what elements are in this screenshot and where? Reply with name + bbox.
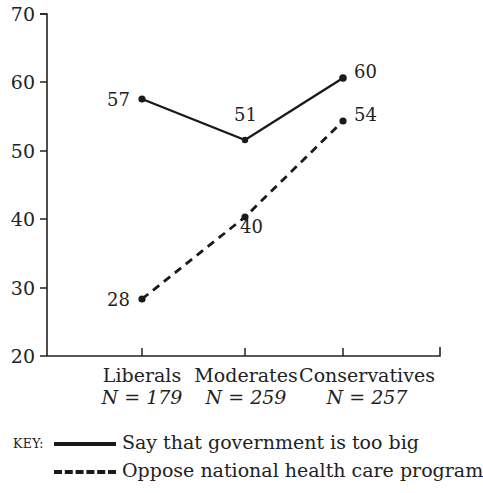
data-point-solid-liberals [138,95,145,102]
x-category-moderates-n: N = 259 [190,386,302,408]
x-category-conservatives-n: N = 257 [294,386,440,408]
legend-label-solid: Say that government is too big [122,430,419,456]
series-line-dashed [142,121,343,299]
legend-key-label: Key: [13,436,44,451]
x-category-liberals-n: N = 179 [92,386,192,408]
x-axis-line [47,347,440,356]
data-point-dashed-conservatives [339,117,346,124]
data-point-solid-moderates [242,137,248,143]
x-category-conservatives-label: Conservatives [294,364,440,386]
y-tick-label-60: 60 [0,73,35,92]
value-label-dashed-liberals: 28 [107,291,130,309]
y-tick-label-50: 50 [0,142,35,161]
legend-swatch-dashed-line-icon [54,470,116,474]
value-label-solid-conservatives: 60 [354,63,377,81]
x-category-liberals-label: Liberals [92,364,192,386]
legend-swatch-solid-line-icon [54,442,116,446]
y-tick-label-70: 70 [0,5,35,24]
legend-label-dashed: Oppose national health care program [122,458,483,484]
y-tick-label-20: 20 [0,347,35,366]
value-label-dashed-moderates: 40 [240,218,263,236]
data-point-solid-conservatives [339,74,347,82]
y-tick-label-30: 30 [0,279,35,298]
x-category-conservatives: Conservatives N = 257 [294,364,440,409]
y-tick-label-40: 40 [0,210,35,229]
x-category-moderates: Moderates N = 259 [190,364,302,409]
x-category-moderates-label: Moderates [190,364,302,386]
value-label-solid-liberals: 57 [107,91,130,109]
value-label-dashed-conservatives: 54 [354,106,377,124]
value-label-solid-moderates: 51 [234,106,257,124]
data-point-dashed-liberals [138,295,145,302]
y-axis-line [40,14,47,356]
legend: Key: Say that government is too big Oppo… [0,430,458,493]
x-category-liberals: Liberals N = 179 [92,364,192,409]
